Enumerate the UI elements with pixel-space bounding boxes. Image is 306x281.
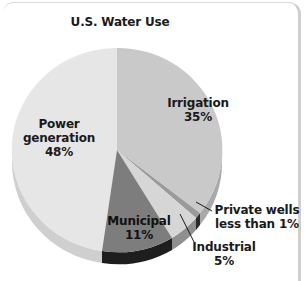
label-industrial: Industrial 5% [184,240,264,268]
label-private-wells: Private wells less than 1% [212,203,302,231]
label-irrigation: Irrigation 35% [158,96,238,124]
label-municipal: Municipal 11% [104,214,174,242]
label-power-generation: Power generation 48% [14,117,104,159]
